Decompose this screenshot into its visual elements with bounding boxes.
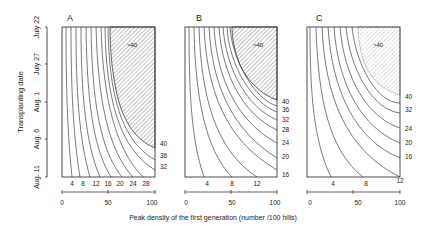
contour-label: 32 xyxy=(282,116,290,123)
contour-label: 20 xyxy=(282,153,290,160)
region-label: >40 xyxy=(127,42,138,48)
y-tick-label: July 27 xyxy=(33,53,41,75)
contour-label: 40 xyxy=(160,140,168,147)
x-tick-label: 50 xyxy=(228,199,236,206)
contour-label: 16 xyxy=(282,171,290,178)
contour-label: 36 xyxy=(282,106,290,113)
panel-label: A xyxy=(67,13,73,23)
x-axis-title: Peak density of the first generation (nu… xyxy=(129,214,297,222)
contour-chart: July 22 July 27 Aug. 1 Aug. 6 Aug. 11 Tr… xyxy=(0,0,426,230)
contour-label: 24 xyxy=(129,180,137,187)
x-tick-label: 100 xyxy=(395,199,406,206)
contour-label: 12 xyxy=(253,180,261,187)
contour-label: 28 xyxy=(142,180,150,187)
y-tick-label: July 22 xyxy=(33,16,41,38)
x-tick-label: 0 xyxy=(184,199,188,206)
contour-label: 8 xyxy=(81,180,85,187)
contour-label: 32 xyxy=(160,163,168,170)
contour-label: 24 xyxy=(282,139,290,146)
x-tick-label: 50 xyxy=(354,199,362,206)
x-tick-label: 100 xyxy=(147,199,158,206)
x-tick-label: 100 xyxy=(270,199,281,206)
y-axis-title: Transplanting date xyxy=(16,71,25,133)
y-tick-label: Aug. 11 xyxy=(33,165,41,189)
region-label: >40 xyxy=(253,42,264,48)
contour-label: 28 xyxy=(282,126,290,133)
contour-label: 4 xyxy=(331,180,335,187)
contour-label: 40 xyxy=(282,98,290,105)
x-tick-label: 0 xyxy=(60,199,64,206)
panel-b: B >40 4 8 12 40 36 32 28 24 20 16 xyxy=(184,13,289,206)
region-label: >40 xyxy=(373,42,384,48)
contour-label: 16 xyxy=(405,153,413,160)
x-tick-label: 0 xyxy=(308,199,312,206)
y-tick-label: Aug. 6 xyxy=(33,129,41,149)
y-axis: July 22 July 27 Aug. 1 Aug. 6 Aug. 11 Tr… xyxy=(16,16,47,189)
contour-label: 36 xyxy=(160,152,168,159)
contour-label: 32 xyxy=(405,106,413,113)
contour-label: 40 xyxy=(405,93,413,100)
contour-label: 4 xyxy=(70,180,74,187)
panel-label: C xyxy=(316,13,323,23)
panel-c: C >40 4 8 12 40 32 24 20 16 xyxy=(307,13,413,206)
contour-label: 12 xyxy=(92,180,100,187)
contour-label: 20 xyxy=(116,180,124,187)
contour-label: 12 xyxy=(396,177,404,184)
contour-label: 4 xyxy=(205,180,209,187)
contour-label: 8 xyxy=(230,180,234,187)
x-tick-label: 50 xyxy=(104,199,112,206)
panel-a: A >40 4 8 12 16 20 24 28 40 36 32 xyxy=(60,13,167,206)
contour-label: 20 xyxy=(405,139,413,146)
panel-label: B xyxy=(196,13,202,23)
contour-label: 8 xyxy=(364,180,368,187)
contour-label: 24 xyxy=(405,125,413,132)
contour-label: 16 xyxy=(104,180,112,187)
y-tick-label: Aug. 1 xyxy=(33,92,41,112)
